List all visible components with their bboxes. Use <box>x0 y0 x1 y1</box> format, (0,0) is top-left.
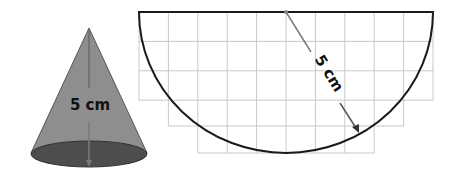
cone-figure: 5 cm <box>31 28 147 167</box>
cone-height-label: 5 cm <box>70 96 110 114</box>
radius-line-upper <box>286 12 311 52</box>
diagram-canvas: 5 cm 5 cm <box>0 0 450 185</box>
radius-arrow-head-icon <box>352 124 359 133</box>
grid <box>139 12 433 153</box>
radius-label: 5 cm <box>311 52 348 96</box>
radius-line-lower <box>340 103 356 128</box>
